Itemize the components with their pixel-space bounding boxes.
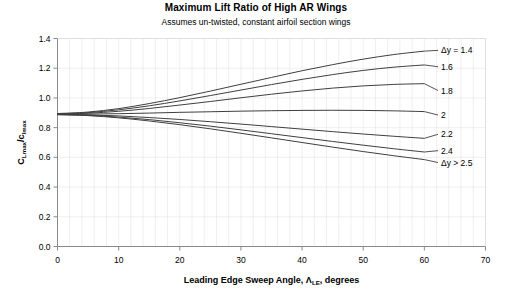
series-label: 2	[441, 110, 446, 120]
series-label: 2.4	[441, 146, 453, 156]
series-label: Δy = 1.4	[441, 45, 473, 55]
x-tick-label: 0	[55, 255, 60, 265]
axis-titles: Leading Edge Sweep Angle, ΛLE, degreesCL…	[16, 120, 359, 286]
leader-line	[424, 84, 438, 91]
y-tick-label: 0.8	[39, 123, 51, 133]
plot-area: 0.00.20.40.60.81.01.21.4010203040506070 …	[0, 0, 512, 294]
leader-line	[424, 134, 438, 138]
y-tick-label: 1.2	[39, 63, 51, 73]
grid-horizontal	[58, 39, 486, 247]
series-label: 1.8	[441, 86, 453, 96]
x-tick-label: 50	[358, 255, 368, 265]
y-tick-label: 0.0	[39, 242, 51, 252]
x-tick-label: 10	[114, 255, 124, 265]
y-tick-label: 0.2	[39, 212, 51, 222]
series-labels: Δy = 1.41.61.822.22.4Δy > 2.5	[441, 45, 473, 167]
leader-line	[424, 112, 438, 115]
y-tick-label: 0.4	[39, 182, 51, 192]
y-axis-title: CLmax/clmax	[16, 120, 27, 165]
x-tick-label: 70	[481, 255, 491, 265]
x-tick-label: 40	[297, 255, 307, 265]
y-tick-label: 0.6	[39, 152, 51, 162]
x-tick-label: 20	[175, 255, 185, 265]
x-tick-label: 60	[420, 255, 430, 265]
chart-container: Maximum Lift Ratio of High AR Wings Assu…	[0, 0, 512, 294]
leader-line	[424, 160, 438, 163]
series-label: 2.2	[441, 129, 453, 139]
y-tick-label: 1.4	[39, 34, 51, 44]
x-axis-title: Leading Edge Sweep Angle, ΛLE, degrees	[184, 275, 360, 286]
series-label: 1.6	[441, 62, 453, 72]
y-tick-label: 1.0	[39, 93, 51, 103]
leader-line	[424, 50, 438, 51]
grid-vertical	[58, 39, 486, 247]
leader-line	[424, 65, 438, 67]
axis-lines	[58, 39, 486, 247]
x-tick-label: 30	[236, 255, 246, 265]
series-label: Δy > 2.5	[441, 158, 473, 168]
leader-lines	[424, 50, 438, 162]
leader-line	[424, 151, 438, 152]
